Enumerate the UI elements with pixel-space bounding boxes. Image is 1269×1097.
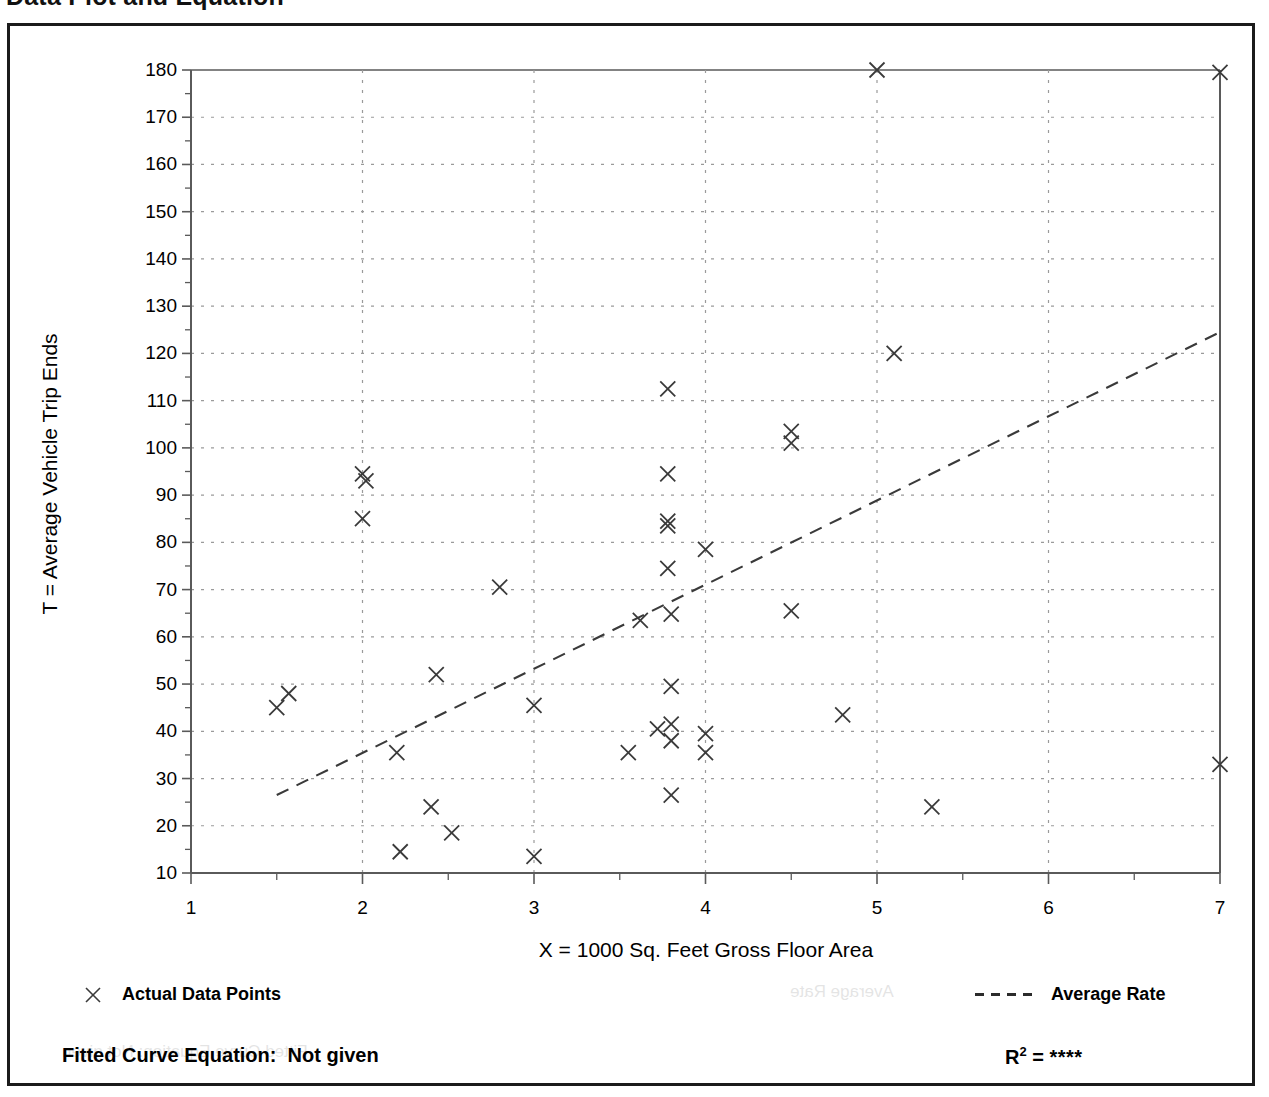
data-point-marker: [444, 825, 459, 840]
data-point-marker: [784, 424, 799, 439]
data-point-marker: [835, 707, 850, 722]
y-axis-tick-label: 60: [129, 627, 177, 646]
legend-label-actual-data-points: Actual Data Points: [122, 984, 281, 1005]
data-point-marker: [358, 473, 373, 488]
y-axis-tick-label: 70: [129, 580, 177, 599]
x-axis-tick-label: 1: [171, 898, 211, 917]
r-squared-label: R: [1005, 1046, 1019, 1068]
data-point-marker: [393, 844, 408, 859]
x-axis-tick-label: 4: [686, 898, 726, 917]
y-axis-tick-label: 170: [129, 107, 177, 126]
data-point-marker: [281, 686, 296, 701]
legend-item-average-rate: Average Rate: [975, 984, 1165, 1005]
y-axis-tick-label: 160: [129, 154, 177, 173]
data-point-marker: [664, 733, 679, 748]
ghost-text-average-rate: Average Rate: [790, 982, 894, 1002]
legend-item-actual-data-points: Actual Data Points: [84, 984, 281, 1005]
y-axis-tick-label: 10: [129, 863, 177, 882]
data-point-marker: [664, 717, 679, 732]
r-squared-equals: =: [1027, 1046, 1050, 1068]
y-axis-tick-label: 100: [129, 438, 177, 457]
data-point-marker: [664, 607, 679, 622]
y-axis-tick-label: 90: [129, 485, 177, 504]
data-point-marker: [698, 726, 713, 741]
data-point-marker: [660, 466, 675, 481]
chart-plot-area: T = Average Vehicle Trip Ends X = 1000 S…: [0, 0, 1269, 1097]
data-point-marker: [492, 580, 507, 595]
x-axis-tick-label: 2: [343, 898, 383, 917]
y-axis-tick-label: 180: [129, 60, 177, 79]
data-point-marker: [664, 788, 679, 803]
data-point-marker: [660, 561, 675, 576]
r-squared-value: ****: [1049, 1046, 1082, 1068]
y-axis-tick-label: 130: [129, 296, 177, 315]
y-axis-tick-label: 110: [129, 391, 177, 410]
y-axis-tick-label: 50: [129, 674, 177, 693]
y-axis-tick-label: 120: [129, 343, 177, 362]
y-axis-tick-label: 150: [129, 202, 177, 221]
data-point-marker: [429, 667, 444, 682]
r-squared-statistic: R2 = ****: [1005, 1044, 1083, 1069]
data-point-marker: [784, 603, 799, 618]
y-axis-tick-label: 40: [129, 721, 177, 740]
trendline-average-rate: [277, 332, 1220, 795]
y-axis-tick-label: 30: [129, 769, 177, 788]
y-axis-title: T = Average Vehicle Trip Ends: [38, 274, 62, 674]
dashed-line-icon: [975, 993, 1037, 996]
x-axis-tick-label: 6: [1029, 898, 1069, 917]
data-point-marker: [424, 799, 439, 814]
data-point-marker: [650, 721, 665, 736]
data-point-marker: [698, 745, 713, 760]
data-point-marker: [389, 745, 404, 760]
y-axis-tick-label: 80: [129, 532, 177, 551]
data-point-marker: [355, 511, 370, 526]
data-point-marker: [664, 679, 679, 694]
data-point-marker: [660, 381, 675, 396]
r-squared-exponent: 2: [1019, 1044, 1026, 1059]
x-axis-tick-label: 3: [514, 898, 554, 917]
data-point-marker: [621, 745, 636, 760]
legend-label-average-rate: Average Rate: [1051, 984, 1165, 1005]
y-axis-tick-label: 20: [129, 816, 177, 835]
scatter-plot-svg: [0, 0, 1269, 1097]
data-point-marker: [698, 542, 713, 557]
x-axis-tick-label: 5: [857, 898, 897, 917]
y-axis-tick-label: 140: [129, 249, 177, 268]
data-point-marker: [269, 700, 284, 715]
data-point-marker: [924, 799, 939, 814]
x-axis-tick-label: 7: [1200, 898, 1240, 917]
x-axis-title: X = 1000 Sq. Feet Gross Floor Area: [191, 938, 1221, 962]
data-point-marker: [887, 346, 902, 361]
ghost-text-equation: Fitted Curve Equation: Not given: [62, 1042, 308, 1062]
x-marker-icon: [84, 986, 102, 1004]
